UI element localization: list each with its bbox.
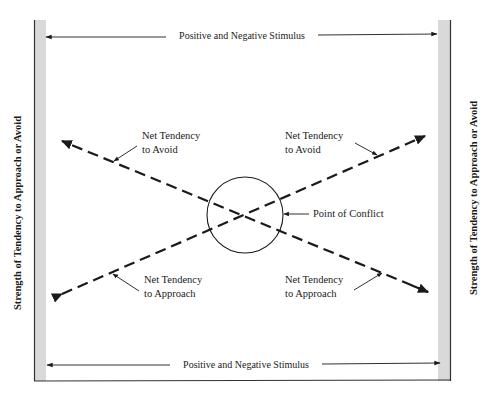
top-axis-label: Positive and Negative Stimulus	[179, 30, 305, 41]
annotation-center-label: Point of Conflict	[313, 208, 384, 219]
annotation-upper-left: Net Tendency to Avoid	[114, 130, 201, 161]
point-of-conflict-circle	[207, 177, 283, 253]
annotation-lower-left: Net Tendency to Approach	[113, 274, 203, 299]
avoid-tendency-line-end	[412, 285, 428, 292]
annotation-center: Point of Conflict	[284, 208, 384, 219]
annotation-lower-right-line2: to Approach	[285, 288, 337, 299]
annotation-lower-left-pointer	[113, 274, 139, 291]
left-axis-label: Strength of Tendency to Approach or Avoi…	[12, 116, 23, 310]
annotation-lower-right: Net Tendency to Approach	[285, 273, 382, 299]
annotation-upper-right: Net Tendency to Avoid	[285, 130, 377, 155]
annotation-upper-right-line2: to Avoid	[285, 144, 321, 155]
annotation-lower-right-pointer	[354, 273, 382, 290]
approach-avoidance-diagram: Positive and Negative Stimulus Positive …	[0, 0, 491, 394]
annotation-lower-right-line1: Net Tendency	[285, 274, 344, 285]
annotation-upper-left-pointer	[114, 146, 137, 161]
annotation-upper-right-pointer	[355, 143, 377, 155]
top-axis: Positive and Negative Stimulus	[46, 30, 437, 41]
annotation-lower-left-line2: to Approach	[144, 288, 196, 299]
left-gray-strip	[34, 20, 46, 381]
annotation-upper-left-line1: Net Tendency	[142, 130, 201, 141]
frame-bottom-edge	[34, 380, 451, 381]
annotation-lower-left-line1: Net Tendency	[144, 274, 203, 285]
right-axis-label: Strength of Tendency to Approach or Avoi…	[468, 101, 479, 295]
frame	[34, 20, 451, 381]
bottom-axis-label: Positive and Negative Stimulus	[183, 359, 309, 370]
annotation-upper-left-line2: to Avoid	[142, 144, 178, 155]
top-axis-right-arrow	[318, 34, 437, 35]
bottom-axis-right-arrow	[322, 363, 440, 364]
annotation-upper-right-line1: Net Tendency	[285, 130, 344, 141]
bottom-axis: Positive and Negative Stimulus	[47, 359, 440, 370]
right-gray-strip	[438, 20, 450, 381]
